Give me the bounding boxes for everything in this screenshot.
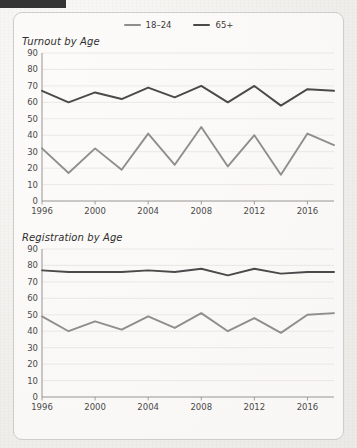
y-axis-tick-label: 90 <box>27 49 38 58</box>
registration-plot-svg: 0102030405060708090199620002004200820122… <box>18 245 340 415</box>
y-axis-tick-label: 20 <box>27 163 38 173</box>
x-axis-tick-label: 2004 <box>137 402 159 412</box>
x-axis-tick-label: 2004 <box>137 206 159 216</box>
series-line-18-24 <box>42 127 334 175</box>
y-axis-tick-label: 70 <box>27 81 38 91</box>
chart-title: Registration by Age <box>22 232 343 243</box>
y-axis-tick-label: 40 <box>27 326 38 336</box>
legend-label: 18–24 <box>146 20 172 30</box>
legend-item-65-plus: 65+ <box>193 20 233 30</box>
y-axis-tick-label: 80 <box>27 260 38 270</box>
legend-item-18-24: 18–24 <box>124 20 172 30</box>
x-axis-tick-label: 2000 <box>84 206 106 216</box>
turnout-plot-svg: 0102030405060708090199620002004200820122… <box>18 49 340 219</box>
x-axis-tick-label: 1996 <box>31 206 53 216</box>
plot-area: 0102030405060708090199620002004200820122… <box>18 49 340 219</box>
legend-label: 65+ <box>215 20 233 30</box>
plot-area: 0102030405060708090199620002004200820122… <box>18 245 340 415</box>
x-axis-tick-label: 2008 <box>190 206 212 216</box>
y-axis-tick-label: 70 <box>27 277 38 287</box>
y-axis-tick-label: 40 <box>27 130 38 140</box>
chart-turnout-by-age: Turnout by Age 0102030405060708090199620… <box>18 36 343 219</box>
x-axis-tick-label: 2012 <box>244 402 266 412</box>
x-axis-tick-label: 2012 <box>244 206 266 216</box>
y-axis-tick-label: 80 <box>27 64 38 74</box>
y-axis-tick-label: 60 <box>27 293 38 303</box>
y-axis-tick-label: 50 <box>27 114 38 124</box>
chart-legend: 18–24 65+ <box>0 20 357 30</box>
x-axis-tick-label: 2000 <box>84 402 106 412</box>
y-axis-tick-label: 10 <box>27 180 38 190</box>
x-axis-tick-label: 2016 <box>297 206 319 216</box>
legend-swatch-icon <box>193 24 210 27</box>
series-line-18-24 <box>42 313 334 333</box>
y-axis-tick-label: 50 <box>27 310 38 320</box>
y-axis-tick-label: 30 <box>27 343 38 353</box>
redaction-bar <box>0 0 66 8</box>
legend-swatch-icon <box>124 24 141 27</box>
chart-title: Turnout by Age <box>22 36 343 47</box>
y-axis-tick-label: 0 <box>33 392 38 402</box>
y-axis-tick-label: 20 <box>27 359 38 369</box>
x-axis-tick-label: 2016 <box>297 402 319 412</box>
chart-registration-by-age: Registration by Age 01020304050607080901… <box>18 232 343 415</box>
y-axis-tick-label: 10 <box>27 376 38 386</box>
y-axis-tick-label: 60 <box>27 97 38 107</box>
y-axis-tick-label: 0 <box>33 196 38 206</box>
x-axis-tick-label: 1996 <box>31 402 53 412</box>
y-axis-tick-label: 90 <box>27 245 38 254</box>
series-line-65- <box>42 269 334 276</box>
y-axis-tick-label: 30 <box>27 147 38 157</box>
x-axis-tick-label: 2008 <box>190 402 212 412</box>
